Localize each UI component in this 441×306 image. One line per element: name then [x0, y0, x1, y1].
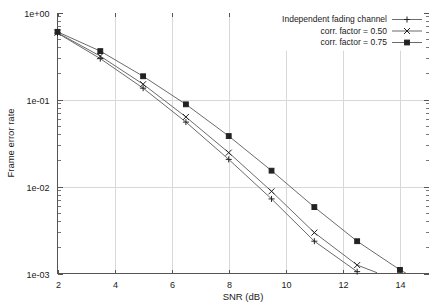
legend-label-2: corr. factor = 0.75: [321, 37, 388, 47]
data-point-marker-1-4: [226, 150, 232, 156]
chart-legend: Independent fading channelcorr. factor =…: [272, 13, 424, 51]
data-point-marker-1-3: [183, 114, 189, 120]
y-tick-labels: 1e+001e-011e-021e-03: [24, 9, 49, 280]
axis-frame: [58, 13, 429, 274]
x-axis-title: SNR (dB): [223, 291, 264, 302]
data-markers-layer: [55, 29, 403, 274]
legend-label-1: corr. factor = 0.50: [321, 26, 388, 36]
data-point-marker-legend-2: [405, 40, 410, 45]
x-tick-label: 4: [113, 280, 118, 290]
series-line-0: [58, 33, 358, 272]
major-tick-layer: [58, 13, 429, 275]
x-tick-label: 8: [227, 280, 232, 290]
data-point-marker-2-1: [98, 49, 103, 54]
data-point-marker-2-4: [226, 134, 231, 139]
x-tick-labels: 2468101214: [56, 280, 406, 290]
chart-figure: 2468101214 1e+001e-011e-021e-03 SNR (dB)…: [0, 0, 441, 306]
series-line-1: [58, 33, 378, 273]
data-point-marker-1-5: [269, 188, 275, 194]
data-curves-layer: [58, 32, 407, 274]
data-point-marker-2-6: [312, 205, 317, 210]
legend-label-0: Independent fading channel: [282, 14, 387, 24]
minor-tick-layer: [58, 17, 429, 248]
data-point-marker-2-3: [184, 102, 189, 107]
x-tick-label: 12: [338, 280, 348, 290]
data-point-marker-2-7: [355, 239, 360, 244]
data-point-marker-2-8: [398, 267, 403, 272]
y-tick-label: 1e-03: [26, 270, 49, 280]
x-tick-label: 2: [56, 280, 61, 290]
data-point-marker-1-7: [354, 262, 360, 268]
data-point-marker-2-0: [55, 29, 60, 34]
series-line-2: [58, 32, 407, 274]
y-tick-label: 1e-02: [26, 183, 49, 193]
x-tick-label: 14: [395, 280, 405, 290]
x-tick-label: 10: [281, 280, 291, 290]
axis-lines: [58, 13, 429, 274]
data-point-marker-2-5: [269, 168, 274, 173]
y-tick-label: 1e+00: [24, 9, 49, 19]
y-axis-title: Frame error rate: [5, 108, 16, 177]
x-tick-label: 6: [170, 280, 175, 290]
grid-layer: [58, 13, 429, 274]
frame-error-rate-plot: 2468101214 1e+001e-011e-021e-03 SNR (dB)…: [0, 0, 441, 306]
data-point-marker-1-6: [311, 230, 317, 236]
data-point-marker-2-2: [141, 74, 146, 79]
y-tick-label: 1e-01: [26, 96, 49, 106]
